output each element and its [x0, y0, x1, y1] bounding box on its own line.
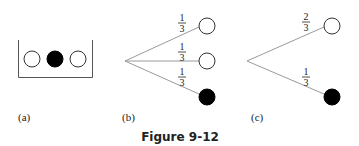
- svg-text:3: 3: [180, 52, 185, 63]
- panel-c: 2 3 1 3 (c): [247, 11, 340, 124]
- ball-black-icon: [199, 89, 215, 105]
- panel-c-label: (c): [251, 111, 264, 124]
- branch-line: [247, 27, 324, 61]
- svg-text:3: 3: [304, 22, 309, 33]
- svg-text:3: 3: [180, 77, 185, 88]
- branch-line: [247, 61, 324, 94]
- figure-caption: Figure 9-12: [141, 130, 219, 144]
- branch-line: [125, 61, 199, 94]
- panel-b-label: (b): [122, 111, 135, 124]
- panel-a: (a): [18, 40, 93, 124]
- svg-text:1: 1: [180, 12, 185, 23]
- fraction-label: 1 3: [302, 66, 310, 88]
- ball-white-icon: [199, 53, 215, 69]
- svg-text:1: 1: [180, 41, 185, 52]
- panel-a-label: (a): [18, 111, 31, 124]
- svg-text:1: 1: [180, 66, 185, 77]
- ball-white-icon: [70, 51, 86, 67]
- fraction-label: 1 3: [178, 41, 186, 63]
- svg-text:1: 1: [304, 66, 309, 77]
- panel-b: 1 3 1 3 1 3 (b): [122, 12, 215, 124]
- fraction-label: 2 3: [302, 11, 310, 33]
- ball-black-icon: [47, 51, 63, 67]
- fraction-label: 1 3: [178, 66, 186, 88]
- ball-white-icon: [199, 18, 215, 34]
- branch-line: [125, 27, 199, 61]
- figure-9-12: (a) 1 3 1 3 1 3 (b) 2: [0, 0, 359, 146]
- fraction-label: 1 3: [178, 12, 186, 34]
- ball-white-icon: [324, 18, 340, 34]
- ball-black-icon: [324, 89, 340, 105]
- svg-text:3: 3: [304, 77, 309, 88]
- svg-text:3: 3: [180, 23, 185, 34]
- ball-white-icon: [24, 51, 40, 67]
- svg-text:2: 2: [304, 11, 309, 22]
